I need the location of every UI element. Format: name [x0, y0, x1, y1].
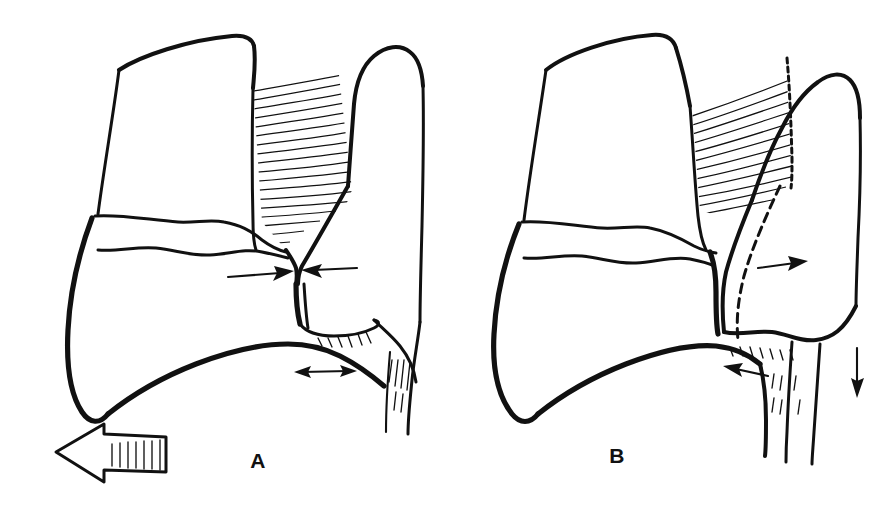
panel-a-crown-top-right-corner	[253, 46, 255, 88]
figure-background	[0, 0, 894, 507]
panel-b-label: B	[609, 444, 625, 467]
figure-illustration: A	[0, 0, 894, 507]
figure-root: A	[0, 0, 894, 507]
panel-a-label: A	[250, 449, 266, 472]
